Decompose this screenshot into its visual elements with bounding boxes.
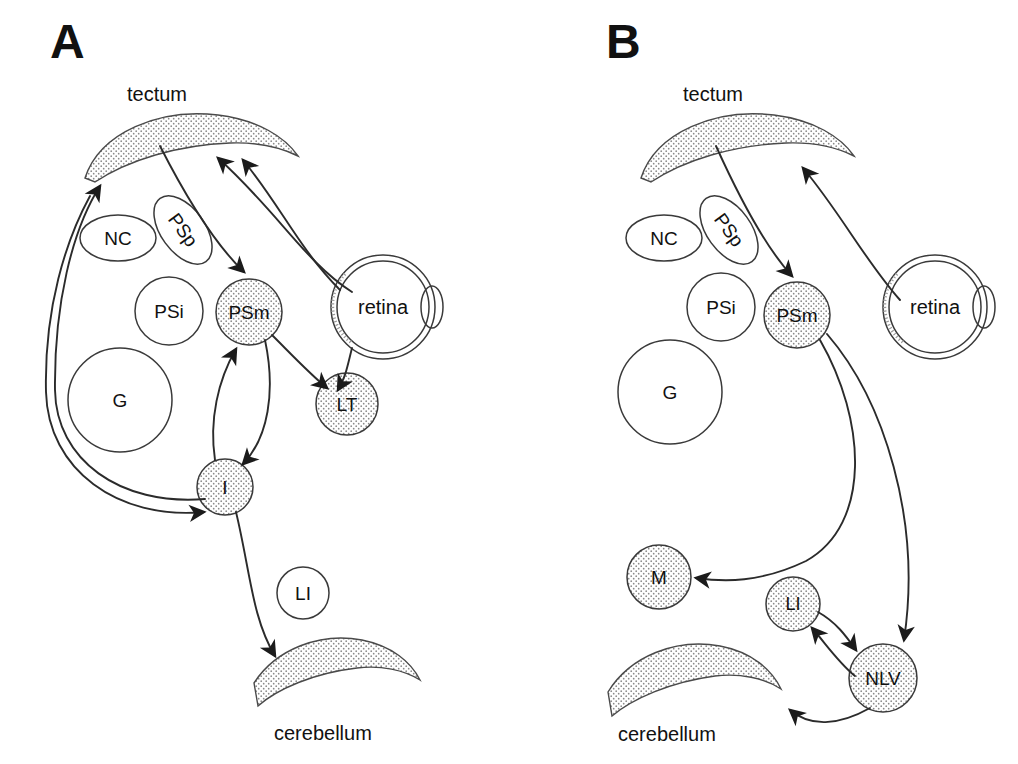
panel-b-letter: B xyxy=(606,15,641,68)
conn-a-i-psm xyxy=(213,349,236,460)
nucleus-psi-label-b: PSi xyxy=(706,297,736,318)
lens-shape-b xyxy=(973,286,995,328)
conn-a-i-cerebellum xyxy=(236,512,275,656)
panel-a-cerebellum: cerebellum xyxy=(254,638,420,744)
conn-b-nlv-cerebellum xyxy=(790,708,870,722)
nucleus-psm-label-b: PSm xyxy=(776,305,817,326)
nucleus-psm-label: PSm xyxy=(228,302,269,323)
panel-a-letter: A xyxy=(50,15,85,68)
lens-shape xyxy=(421,286,443,328)
nucleus-psi-label: PSi xyxy=(154,301,184,322)
panel-b: B tectum NC PSp PSi PSm G M LI NLV xyxy=(606,15,995,745)
nucleus-li-label-b: LI xyxy=(785,594,800,614)
cerebellum-label-b: cerebellum xyxy=(618,723,716,745)
panel-b-retina: retina xyxy=(883,255,995,359)
nucleus-g-label: G xyxy=(113,390,128,411)
tectum-label: tectum xyxy=(127,83,187,105)
retina-label-b: retina xyxy=(910,296,961,318)
retina-label: retina xyxy=(358,296,409,318)
conn-b-li-nlv xyxy=(818,612,856,650)
panel-a-tectum: tectum xyxy=(85,83,298,182)
nucleus-g-label-b: G xyxy=(663,382,678,403)
nucleus-i-label: I xyxy=(222,477,227,498)
conn-a-retina-tectum-2 xyxy=(218,158,352,292)
conn-a-psm-lt xyxy=(272,335,327,388)
nucleus-nc-label: NC xyxy=(104,228,131,249)
nucleus-m-label: M xyxy=(651,567,667,588)
panel-b-cerebellum: cerebellum xyxy=(608,644,781,745)
panel-a-retina: retina xyxy=(331,255,443,359)
conn-b-nlv-li xyxy=(812,628,855,676)
cerebellum-band-shape-b xyxy=(608,644,781,716)
nucleus-nlv-label: NLV xyxy=(865,668,901,689)
cerebellum-label: cerebellum xyxy=(274,722,372,744)
nucleus-lt-label: LT xyxy=(337,394,358,415)
panel-b-tectum: tectum xyxy=(641,83,854,182)
conn-b-retina-tectum xyxy=(803,168,900,300)
figure-canvas: A tectum NC PSp PSi PSm G LT I LI xyxy=(0,0,1018,764)
circuit-diagram-svg: A tectum NC PSp PSi PSm G LT I LI xyxy=(0,0,1018,764)
tectum-band-shape-b xyxy=(641,114,854,182)
nucleus-li-label: LI xyxy=(295,583,311,604)
nucleus-nc-label-b: NC xyxy=(650,228,677,249)
tectum-band-shape xyxy=(85,114,298,182)
cerebellum-band-shape xyxy=(254,638,420,706)
conn-a-psm-i xyxy=(243,340,270,464)
panel-a: A tectum NC PSp PSi PSm G LT I LI xyxy=(46,15,443,744)
tectum-label-b: tectum xyxy=(683,83,743,105)
